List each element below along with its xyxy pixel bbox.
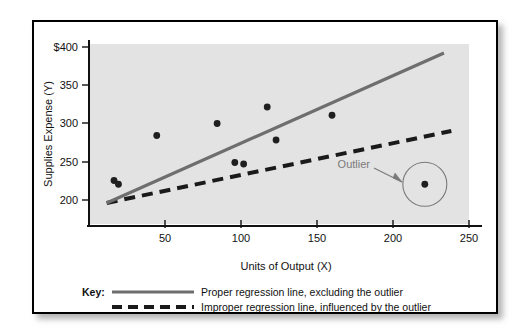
- data-point: [273, 137, 280, 144]
- data-point: [231, 159, 238, 166]
- outlier-annotation-label: Outlier: [338, 158, 371, 170]
- legend-key-label: Key:: [82, 286, 105, 298]
- figure-container: $400 350 300 250 200 50 100 150 200 250: [0, 0, 523, 334]
- scatter-chart: $400 350 300 250 200 50 100 150 200 250: [34, 22, 496, 312]
- data-point: [240, 161, 247, 168]
- legend-label-improper: Improper regression line, influenced by …: [201, 301, 431, 312]
- x-tick-label-100: 100: [232, 232, 250, 244]
- plot-background: [89, 44, 469, 224]
- data-point: [214, 120, 221, 127]
- data-point: [329, 112, 336, 119]
- x-tick-labels: 50 100 150 200 250: [159, 232, 478, 244]
- data-point: [115, 181, 122, 188]
- x-tick-label-250: 250: [460, 232, 478, 244]
- y-tick-labels: $400 350 300 250 200: [54, 41, 78, 206]
- legend-label-proper: Proper regression line, excluding the ou…: [201, 286, 403, 298]
- x-axis-title-text: Units of Output (X): [240, 260, 331, 272]
- data-point-outlier: [421, 181, 428, 188]
- data-point: [264, 104, 271, 111]
- x-axis-title: Units of Output (X): [240, 260, 331, 272]
- x-tick-label-50: 50: [159, 232, 171, 244]
- y-axis-title-text: Supplies Expense (Y): [42, 81, 54, 187]
- figure-frame: $400 350 300 250 200 50 100 150 200 250: [32, 20, 498, 314]
- y-axis-title: Supplies Expense (Y): [42, 81, 54, 187]
- y-tick-label-250: 250: [60, 156, 78, 168]
- y-tick-marks: [82, 47, 89, 200]
- y-tick-label-200: 200: [60, 194, 78, 206]
- x-tick-label-150: 150: [308, 232, 326, 244]
- y-tick-label-300: 300: [60, 117, 78, 129]
- x-tick-label-200: 200: [384, 232, 402, 244]
- data-point: [153, 132, 160, 139]
- y-tick-label-350: 350: [60, 79, 78, 91]
- y-tick-label-400: $400: [54, 41, 78, 53]
